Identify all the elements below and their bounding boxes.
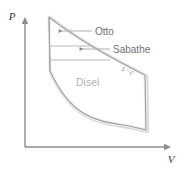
pv-diagram-canvas: P V Otto Sabathe Disel (0, 0, 189, 169)
volume-axis-label: V (168, 153, 176, 165)
diesel-label: Disel (76, 76, 99, 88)
pv-cycle-figure: P V Otto Sabathe Disel (0, 0, 189, 169)
pressure-axis-label: P (8, 10, 16, 22)
sabathe-label: Sabathe (113, 44, 151, 55)
otto-label: Otto (95, 26, 114, 37)
